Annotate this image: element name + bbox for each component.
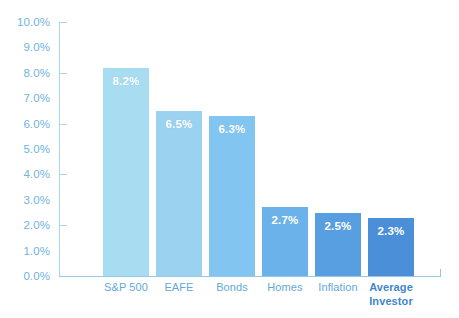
x-tick-label-average-investor: Average Investor bbox=[358, 281, 424, 308]
bar-average-investor[interactable]: 2.3% bbox=[368, 218, 414, 276]
bar-eafe[interactable]: 6.5% bbox=[156, 111, 202, 276]
x-tick-label-line-2: Investor bbox=[358, 295, 424, 309]
bar-value-label: 2.3% bbox=[368, 225, 414, 237]
x-axis-line bbox=[59, 276, 441, 277]
y-tick-label: 7.0% bbox=[0, 92, 50, 104]
bar-sp500[interactable]: 8.2% bbox=[103, 68, 149, 276]
plot-area: 8.2% 6.5% 6.3% 2.7% 2.5% 2.3% bbox=[60, 22, 441, 276]
x-tick-label-line-1: Average bbox=[358, 281, 424, 295]
y-tick-label: 2.0% bbox=[0, 219, 50, 231]
bar-bonds[interactable]: 6.3% bbox=[209, 116, 255, 276]
x-axis: S&P 500 EAFE Bonds Homes Inflation Avera… bbox=[60, 281, 441, 318]
bar-homes[interactable]: 2.7% bbox=[262, 207, 308, 276]
y-tick-label: 6.0% bbox=[0, 118, 50, 130]
bar-value-label: 6.5% bbox=[156, 118, 202, 130]
y-tick-label: 10.0% bbox=[0, 16, 50, 28]
bar-chart: 10.0% 9.0% 8.0% 7.0% 6.0% 5.0% 4.0% 3.0%… bbox=[0, 0, 459, 318]
bar-value-label: 8.2% bbox=[103, 75, 149, 87]
bar-value-label: 2.7% bbox=[262, 214, 308, 226]
bar-inflation[interactable]: 2.5% bbox=[315, 213, 361, 277]
y-tick-label: 8.0% bbox=[0, 67, 50, 79]
y-tick-label: 9.0% bbox=[0, 41, 50, 53]
y-tick-label: 4.0% bbox=[0, 168, 50, 180]
y-tick-label: 0.0% bbox=[0, 270, 50, 282]
y-tick-label: 3.0% bbox=[0, 194, 50, 206]
bar-value-label: 6.3% bbox=[209, 123, 255, 135]
y-tick-label: 5.0% bbox=[0, 143, 50, 155]
y-axis: 10.0% 9.0% 8.0% 7.0% 6.0% 5.0% 4.0% 3.0%… bbox=[0, 0, 56, 318]
bar-value-label: 2.5% bbox=[315, 220, 361, 232]
y-tick-label: 1.0% bbox=[0, 245, 50, 257]
